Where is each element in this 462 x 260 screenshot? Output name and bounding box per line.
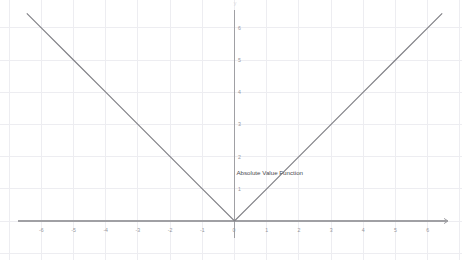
chart-canvas: -6-5-4-3-2-10123456 123456 y Absolute Va… xyxy=(0,0,462,260)
y-tick-label: 5 xyxy=(238,57,241,63)
series-annotation-label: Absolute Value Function xyxy=(236,169,303,176)
y-tick-label: 4 xyxy=(238,89,241,95)
x-tick-label: -3 xyxy=(136,227,141,233)
x-tick-label: -5 xyxy=(71,227,76,233)
y-axis-label-clipped: y xyxy=(234,0,237,6)
x-tick-label: 5 xyxy=(394,227,397,233)
x-tick-label: 3 xyxy=(330,227,333,233)
x-tick-label: 1 xyxy=(265,227,268,233)
y-tick-label: 1 xyxy=(238,186,241,192)
x-tick-label: -1 xyxy=(200,227,205,233)
y-tick-label: 3 xyxy=(238,121,241,127)
x-tick-label: -4 xyxy=(103,227,108,233)
x-tick-label: 4 xyxy=(362,227,365,233)
y-tick-label: 2 xyxy=(238,154,241,160)
x-tick-label: 6 xyxy=(426,227,429,233)
x-tick-label: -2 xyxy=(168,227,173,233)
x-tick-label: -6 xyxy=(39,227,44,233)
y-tick-label: 6 xyxy=(238,25,241,31)
absolute-value-function-plot: -6-5-4-3-2-10123456 123456 y Absolute Va… xyxy=(0,0,462,260)
x-tick-label: 2 xyxy=(297,227,300,233)
x-tick-label: 0 xyxy=(233,227,236,233)
